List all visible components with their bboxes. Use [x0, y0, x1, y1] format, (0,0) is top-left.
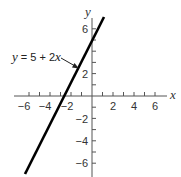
x-tick-label: −6	[18, 100, 31, 112]
y-tick-label: 6	[82, 23, 88, 35]
annotation-arrow-icon	[61, 58, 79, 69]
y-tick-label: −2	[75, 113, 88, 125]
y-axis-label: y	[83, 4, 91, 19]
x-tick-label: 6	[152, 100, 158, 112]
x-tick-label: −4	[39, 100, 52, 112]
y-tick-label: −6	[75, 157, 88, 169]
line-chart: −6 −4 −2 2 4 6 6 2 −2 −4 −6 y x y = 5 + …	[0, 0, 181, 177]
x-tick-label: 2	[110, 100, 116, 112]
x-axis-label: x	[169, 87, 176, 102]
y-tick-label: −4	[75, 135, 88, 147]
equation-label: y = 5 + 2x	[10, 49, 61, 64]
y-tick-label: 2	[82, 68, 88, 80]
x-tick-label: 4	[131, 100, 137, 112]
